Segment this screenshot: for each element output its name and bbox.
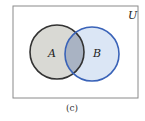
universe-label: U — [128, 9, 138, 22]
figure-caption: (c) — [66, 103, 78, 113]
venn-diagram: U A B (c) — [0, 0, 145, 121]
set-a-label: A — [47, 47, 56, 60]
set-b-label: B — [92, 47, 101, 60]
